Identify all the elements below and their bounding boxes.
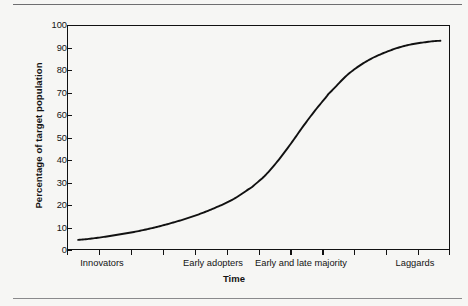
x-tick-mark-12 (449, 250, 450, 255)
x-tick-mark-1 (99, 250, 100, 255)
x-category-label-laggards: Laggards (396, 258, 435, 268)
x-tick-mark-4 (195, 250, 196, 255)
y-tick-label-70: 70 (41, 89, 67, 98)
x-tick-mark-7 (290, 250, 291, 255)
y-tick-label-30: 30 (41, 179, 67, 188)
y-tick-label-80: 80 (41, 66, 67, 75)
y-axis-tick-labels: 100 90 80 70 60 50 40 30 20 10 0 (33, 0, 67, 306)
y-tick-label-20: 20 (41, 201, 67, 210)
x-tick-mark-11 (418, 250, 419, 255)
y-tick-label-50: 50 (41, 134, 67, 143)
adoption-curve-line (78, 41, 440, 240)
y-tick-label-100: 100 (41, 21, 67, 30)
x-category-label-early-and-late-majority: Early and late majority (255, 258, 347, 268)
x-tick-mark-10 (386, 250, 387, 255)
x-tick-mark-9 (354, 250, 355, 255)
x-tick-mark-0 (67, 250, 68, 255)
x-tick-mark-6 (259, 250, 260, 255)
y-tick-label-90: 90 (41, 44, 67, 53)
x-category-label-early-adopters: Early adopters (183, 258, 243, 268)
y-tick-label-40: 40 (41, 156, 67, 165)
x-axis-title: Time (0, 273, 468, 284)
x-tick-mark-8 (322, 250, 323, 255)
x-tick-mark-2 (131, 250, 132, 255)
y-tick-label-10: 10 (41, 224, 67, 233)
x-tick-mark-3 (163, 250, 164, 255)
x-category-label-innovators: Innovators (80, 258, 123, 268)
figure-page: Percentage of target population 100 90 8… (0, 0, 468, 306)
s-curve-chart: Percentage of target population 100 90 8… (0, 0, 468, 306)
y-tick-label-60: 60 (41, 111, 67, 120)
y-tick-label-0: 0 (41, 246, 67, 255)
x-tick-mark-5 (227, 250, 228, 255)
adoption-curve-layer (67, 25, 450, 250)
